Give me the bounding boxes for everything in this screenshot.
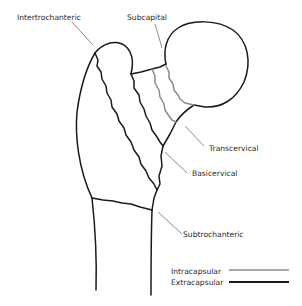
neck-superior-outline	[131, 64, 166, 74]
label-subtrochanteric: Subtrochanteric	[183, 230, 244, 239]
legend: Intracapsular Extracapsular	[171, 267, 289, 287]
leader-transcervical	[185, 126, 204, 146]
subcapital-fracture-line	[166, 66, 194, 105]
basicervical-fracture-line	[131, 74, 163, 146]
label-basicervical: Basicervical	[192, 169, 237, 178]
label-transcervical: Transcervical	[208, 144, 259, 153]
femur-fracture-diagram: Intertrochanteric Subcapital Transcervic…	[0, 0, 302, 306]
lateral-cortex-outline	[76, 53, 95, 198]
medial-cortex-outline	[152, 146, 163, 210]
label-subcapital: Subcapital	[127, 13, 167, 22]
shaft-lateral-outline	[92, 198, 96, 290]
transcervical-fracture-line	[152, 69, 176, 122]
leader-subcapital	[155, 24, 162, 48]
leader-subtrochanteric	[158, 212, 182, 234]
leader-intertrochanteric	[72, 22, 93, 45]
neck-inferior-outline	[163, 105, 194, 146]
intertrochanteric-fracture-line	[95, 53, 157, 190]
shaft-medial-outline	[151, 210, 152, 295]
subtrochanteric-fracture-line	[92, 198, 152, 210]
label-intertrochanteric: Intertrochanteric	[17, 13, 81, 22]
legend-intracapsular-label: Intracapsular	[171, 267, 222, 276]
greater-trochanter-outline	[95, 42, 132, 74]
leader-basicervical	[165, 152, 187, 173]
legend-extracapsular-label: Extracapsular	[171, 278, 224, 287]
